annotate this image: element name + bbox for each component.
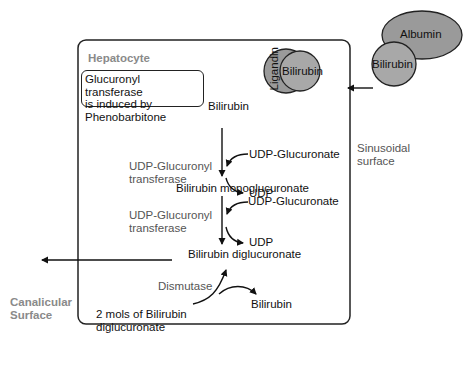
induction-note: Glucuronyl transferase is induced by Phe… bbox=[81, 70, 204, 107]
bilirubin-diglucuronate: Bilirubin diglucuronate bbox=[188, 248, 301, 261]
step2-enzyme: UDP-Glucuronyl transferase bbox=[129, 209, 212, 235]
step2-udp-glucuronate: UDP-Glucuronate bbox=[248, 195, 339, 208]
bilirubin-start: Bilirubin bbox=[208, 100, 249, 113]
dismutase-substrate: 2 mols of Bilirubin diglucuronate bbox=[96, 308, 187, 334]
step1-udp-glucuronate: UDP-Glucuronate bbox=[249, 148, 340, 161]
note-line: Glucuronyl transferase bbox=[85, 73, 200, 98]
canalicular-surface-label: Canalicular Surface bbox=[10, 296, 72, 322]
ligandin-label: Ligandin bbox=[268, 51, 281, 91]
note-line: is induced by bbox=[85, 98, 200, 111]
hepatocyte-label: Hepatocyte bbox=[88, 52, 150, 65]
albumin-label: Albumin bbox=[400, 28, 442, 41]
dismutase-bilirubin: Bilirubin bbox=[251, 298, 292, 311]
note-line: Phenobarbitone bbox=[85, 111, 200, 124]
sinusoidal-surface-label: Sinusoidal surface bbox=[357, 142, 410, 168]
dismutase-label: Dismutase bbox=[158, 280, 212, 293]
bilirubin-ligandin-label: Bilirubin bbox=[282, 65, 323, 78]
bilirubin-monoglucuronate: Bilirubin monoglucuronate bbox=[176, 182, 309, 195]
bilirubin-albumin-label: Bilirubin bbox=[372, 58, 413, 71]
